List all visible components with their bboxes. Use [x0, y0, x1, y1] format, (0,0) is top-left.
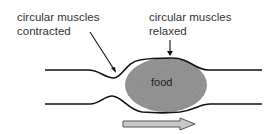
- pointer-contracted: [90, 32, 115, 71]
- peristalsis-diagram: [0, 0, 269, 134]
- arrowhead-relaxed-icon: [167, 51, 173, 56]
- arrowhead-contracted-icon: [111, 67, 116, 73]
- direction-arrow-right-icon: [123, 118, 195, 130]
- food-label: food: [151, 76, 172, 88]
